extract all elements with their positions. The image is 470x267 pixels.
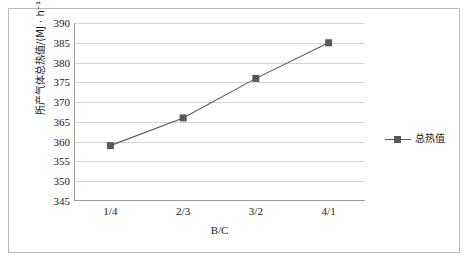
- chart-legend: 总热值: [385, 133, 445, 145]
- series-line: [110, 43, 328, 146]
- y-axis-tick-label: 365: [40, 117, 70, 128]
- y-axis-tick-label: 375: [40, 77, 70, 88]
- x-axis-tick-label: 3/2: [226, 205, 286, 218]
- y-axis-tick-label: 380: [40, 58, 70, 69]
- y-axis-tick-label: 355: [40, 156, 70, 167]
- data-point-marker: [325, 39, 332, 46]
- legend-marker-icon: [385, 135, 411, 144]
- x-axis-tick-label: 1/4: [80, 205, 140, 218]
- y-axis-tick-label: 350: [40, 176, 70, 187]
- data-point-marker: [180, 114, 187, 121]
- y-axis-tick-label: 385: [40, 38, 70, 49]
- series-layer: [74, 23, 365, 201]
- x-axis-tick-label: 2/3: [153, 205, 213, 218]
- y-axis-tick-label: 345: [40, 196, 70, 207]
- y-axis-tick-labels: 390385380375370365360355350345: [38, 23, 70, 201]
- y-axis-tick-label: 390: [40, 18, 70, 29]
- x-axis-title: B/C: [74, 224, 365, 237]
- chart-figure: 所产气体总热值/(MJ · h⁻¹) 390385380375370365360…: [0, 0, 470, 267]
- data-point-marker: [107, 142, 114, 149]
- x-axis-tick-label: 4/1: [299, 205, 359, 218]
- legend-label: 总热值: [415, 133, 445, 145]
- data-point-marker: [252, 75, 259, 82]
- y-axis-tick-label: 360: [40, 137, 70, 148]
- y-axis-tick-label: 370: [40, 97, 70, 108]
- x-axis-tick-labels: 1/42/33/24/1: [74, 205, 365, 221]
